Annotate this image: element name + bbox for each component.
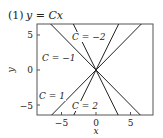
annotation-c2: C = 2 [72, 101, 98, 111]
xtick-label: 5 [128, 118, 134, 128]
chart: (1) y = Cx −5 0 5 5 0 −5 x y C = −2 C = … [0, 0, 163, 138]
ytick-label: −5 [20, 101, 34, 111]
annotation-c-neg1: C = −1 [42, 53, 75, 63]
ytick-label: 0 [27, 65, 33, 75]
x-axis-label: x [93, 126, 98, 136]
chart-title: y = Cx [25, 9, 64, 22]
annotation-c-neg2: C = −2 [72, 32, 106, 42]
annotation-c1: C = 1 [39, 91, 65, 101]
xtick-label: −5 [55, 118, 69, 128]
chart-title-prefix: (1) [8, 9, 24, 22]
y-axis-label: y [6, 67, 16, 74]
ytick-label: 5 [27, 30, 33, 40]
